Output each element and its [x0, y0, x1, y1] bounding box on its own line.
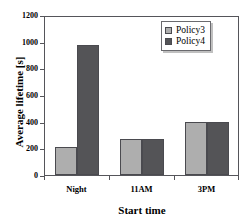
x-tick-mark [44, 176, 45, 180]
y-tick-label: 600 [4, 92, 38, 100]
x-tick-label: Night [44, 184, 109, 194]
bar [55, 147, 77, 175]
legend-label: Policy4 [176, 36, 205, 47]
x-axis-title: Start time [44, 204, 240, 216]
bar [185, 122, 207, 175]
y-tick-label: 0 [4, 172, 38, 180]
y-tick-label: 400 [4, 119, 38, 127]
legend-label: Policy3 [176, 25, 205, 36]
bar [207, 122, 229, 175]
y-tick-label: 800 [4, 65, 38, 73]
legend-swatch-icon [165, 38, 172, 45]
x-tick-mark [174, 176, 175, 180]
legend-item: Policy4 [165, 36, 205, 47]
legend-item: Policy3 [165, 25, 205, 36]
bar [120, 139, 142, 175]
x-tick-label: 11AM [109, 184, 174, 194]
y-tick-label: 200 [4, 145, 38, 153]
y-tick-label: 1200 [4, 12, 38, 20]
y-tick-label: 1000 [4, 39, 38, 47]
chart-legend: Policy3Policy4 [161, 21, 211, 51]
x-tick-mark [109, 176, 110, 180]
bar [77, 45, 99, 175]
legend-swatch-icon [165, 27, 172, 34]
chart-figure: Average lifetime [s] 0200400600800100012… [0, 0, 247, 224]
x-tick-label: 3PM [174, 184, 239, 194]
x-tick-mark [238, 176, 239, 180]
bar [142, 139, 164, 175]
